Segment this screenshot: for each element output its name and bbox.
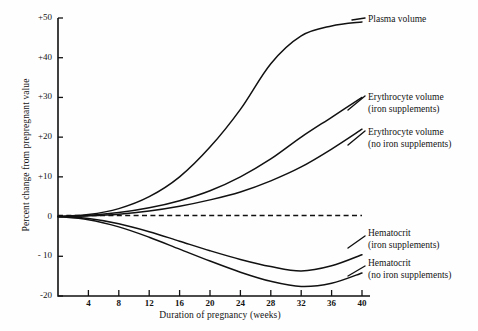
y-tick-label: -20 bbox=[22, 290, 52, 300]
chart-plot-area bbox=[0, 0, 478, 331]
series-label-line2: (no iron supplements) bbox=[368, 139, 451, 151]
x-tick-label: 20 bbox=[198, 298, 222, 308]
series-label: Erythrocyte volume(no iron supplements) bbox=[368, 127, 451, 150]
x-tick-label: 28 bbox=[259, 298, 283, 308]
x-tick-label: 8 bbox=[107, 298, 131, 308]
series-curve bbox=[58, 129, 362, 216]
series-label: Plasma volume bbox=[368, 14, 426, 26]
axis-lines bbox=[58, 18, 370, 296]
series-label-line1: Erythrocyte volume bbox=[368, 92, 444, 104]
label-leader-line bbox=[352, 18, 365, 20]
series-label-line1: Hematocrit bbox=[368, 258, 451, 270]
series-label: Erythrocyte volume(iron supplements) bbox=[368, 92, 444, 115]
x-axis-title: Duration of pregnancy (weeks) bbox=[130, 310, 310, 320]
y-tick-label: +20 bbox=[22, 131, 52, 141]
x-axis-ticks bbox=[88, 290, 362, 296]
series-label-line2: (iron supplements) bbox=[368, 104, 444, 116]
series-label-line2: (no iron supplements) bbox=[368, 270, 451, 282]
x-tick-label: 16 bbox=[168, 298, 192, 308]
series-curve bbox=[58, 217, 362, 271]
label-leader-line bbox=[348, 96, 365, 110]
series-label: Hematocrit(iron supplements) bbox=[368, 228, 440, 251]
y-tick-label: +40 bbox=[22, 52, 52, 62]
series-curve bbox=[58, 217, 362, 287]
series-label-line2: (iron supplements) bbox=[368, 240, 440, 252]
y-tick-label: +50 bbox=[22, 12, 52, 22]
series-label: Hematocrit(no iron supplements) bbox=[368, 258, 451, 281]
label-leader-line bbox=[348, 236, 365, 248]
y-tick-label: +30 bbox=[22, 91, 52, 101]
x-tick-label: 36 bbox=[320, 298, 344, 308]
y-axis-title: Percent change from prepregnant value bbox=[21, 55, 31, 255]
series-label-line1: Hematocrit bbox=[368, 228, 440, 240]
y-tick-label: - 10 bbox=[22, 250, 52, 260]
series-curve bbox=[58, 97, 362, 216]
x-tick-label: 12 bbox=[137, 298, 161, 308]
series-curves bbox=[58, 22, 362, 287]
x-tick-label: 40 bbox=[350, 298, 374, 308]
series-curve bbox=[58, 22, 362, 217]
y-tick-label: 0 bbox=[22, 211, 52, 221]
x-tick-label: 24 bbox=[228, 298, 252, 308]
chart-figure: Percent change from prepregnant value Du… bbox=[0, 0, 478, 331]
label-leader-lines bbox=[348, 18, 365, 276]
series-label-line1: Erythrocyte volume bbox=[368, 127, 451, 139]
y-tick-label: +10 bbox=[22, 171, 52, 181]
x-tick-label: 32 bbox=[289, 298, 313, 308]
series-label-line1: Plasma volume bbox=[368, 14, 426, 26]
x-tick-label: 4 bbox=[76, 298, 100, 308]
